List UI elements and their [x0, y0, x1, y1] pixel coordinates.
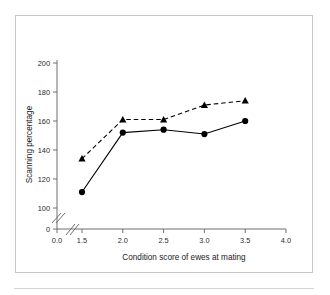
- y-tick-label: 160: [38, 117, 50, 126]
- x-tick-label: 1.5: [77, 236, 87, 245]
- data-point-circle: [201, 131, 207, 137]
- figure-frame: 01001201401601802000.01.52.02.53.03.54.0…: [15, 15, 313, 273]
- data-point-triangle: [119, 116, 126, 122]
- y-tick-label: 140: [38, 146, 50, 155]
- x-axis-title: Condition score of ewes at mating: [122, 253, 246, 262]
- data-point-circle: [242, 118, 248, 124]
- y-tick-label: 200: [38, 59, 50, 68]
- bottom-divider: [14, 288, 314, 289]
- y-tick-label: 120: [38, 175, 50, 184]
- data-point-circle: [79, 189, 85, 195]
- y-tick-label: 0: [46, 225, 50, 234]
- x-tick-label: 0.0: [52, 236, 62, 245]
- x-tick-label: 2.0: [118, 236, 128, 245]
- data-point-triangle: [242, 97, 249, 103]
- y-tick-label: 100: [38, 204, 50, 213]
- y-tick-label: 180: [38, 88, 50, 97]
- y-axis-title: Scanning percentage: [25, 105, 34, 183]
- x-tick-label: 4.0: [281, 236, 291, 245]
- data-point-circle: [120, 130, 126, 136]
- data-point-circle: [161, 127, 167, 133]
- x-tick-label: 3.5: [240, 236, 250, 245]
- x-tick-label: 2.5: [158, 236, 168, 245]
- x-tick-label: 3.0: [199, 236, 209, 245]
- scanning-percentage-line-chart: 01001201401601802000.01.52.02.53.03.54.0…: [16, 16, 314, 274]
